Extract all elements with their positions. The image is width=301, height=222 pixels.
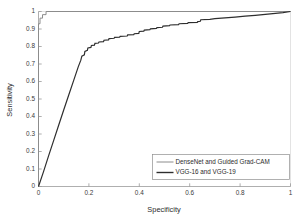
x-axis-title: Specificity <box>147 205 181 214</box>
x-axis-ticks: 00.20.40.60.81 <box>37 183 293 195</box>
y-tick-label: 0.8 <box>26 42 35 49</box>
chart-legend: DenseNet and Guided Grad-CAMVGG-16 and V… <box>153 155 290 180</box>
y-axis-ticks: 00.10.20.30.40.50.60.70.80.91 <box>26 7 42 189</box>
roc-chart-figure: 00.20.40.60.81 00.10.20.30.40.50.60.70.8… <box>0 0 301 222</box>
y-axis-title: Sensitivity <box>5 83 14 117</box>
y-tick-label: 0.5 <box>26 95 35 102</box>
y-tick-label: 0.6 <box>26 77 35 84</box>
y-tick-label: 0.7 <box>26 60 35 67</box>
y-tick-label: 0.1 <box>26 165 35 172</box>
x-tick-label: 0.2 <box>84 189 93 196</box>
y-tick-label: 1 <box>31 7 35 14</box>
y-tick-label: 0 <box>31 182 35 189</box>
y-tick-label: 0.3 <box>26 130 35 137</box>
x-tick-label: 0 <box>37 189 41 196</box>
y-tick-label: 0.2 <box>26 147 35 154</box>
x-tick-label: 0.6 <box>185 189 194 196</box>
x-tick-label: 1 <box>289 189 293 196</box>
y-tick-label: 0.4 <box>26 112 35 119</box>
roc-chart-svg: 00.20.40.60.81 00.10.20.30.40.50.60.70.8… <box>0 0 301 222</box>
legend-label-1: DenseNet and Guided Grad-CAM <box>176 158 270 165</box>
legend-label-2: VGG-16 and VGG-19 <box>176 168 237 175</box>
x-tick-label: 0.8 <box>236 189 245 196</box>
y-tick-label: 0.9 <box>26 25 35 32</box>
x-tick-label: 0.4 <box>135 189 144 196</box>
